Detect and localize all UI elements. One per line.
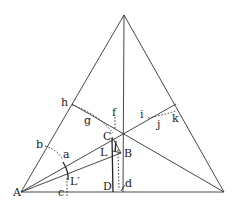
label-k: k [172,112,179,125]
label-h: h [61,96,68,109]
label-d: d [125,177,132,190]
dotted-arc-b-a [45,146,63,160]
outer-triangle [21,15,224,192]
label-Lprime: L′ [70,175,80,188]
label-b: b [36,138,43,151]
label-i: i [140,108,144,121]
label-g: g [84,114,91,127]
label-B: B [124,147,132,160]
dotted-arc-h-g-C [72,105,113,133]
label-D: D [103,180,112,193]
dotted-line-B-d [118,150,119,190]
label-a: a [63,148,70,161]
label-c: c [58,186,64,199]
label-f: f [112,106,117,119]
label-L: L [100,146,108,159]
geometry-diagram: A b a c L′ h g f C L B D d i j k [0,0,235,200]
small-triangle-CLB [112,137,121,192]
label-j: j [155,118,160,131]
line-h-to-right-corner [72,104,224,192]
arc-a-Lprime [63,162,68,180]
label-A: A [12,186,22,199]
vertical-altitude [123,15,124,192]
label-C: C [103,130,111,143]
